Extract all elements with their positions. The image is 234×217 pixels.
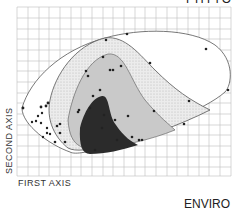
x-axis-label: FIRST AXIS — [18, 178, 71, 188]
bottom-label: ENVIRO — [184, 197, 230, 211]
y-axis-label: SECOND AXIS — [4, 107, 14, 174]
